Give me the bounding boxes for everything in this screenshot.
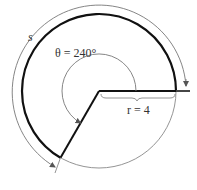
angle-label: θ = 240° (55, 46, 97, 60)
thick-arc (22, 14, 176, 158)
terminal-side (61, 91, 100, 158)
angle-arc (62, 54, 136, 123)
sector-diagram: θ = 240° r = 4 s (0, 0, 197, 190)
arc-label-s: s (28, 30, 33, 44)
arc-length-s-indicator (12, 5, 186, 167)
radius-brace (101, 94, 175, 101)
terminal-side-extension (55, 158, 61, 173)
radius-label: r = 4 (127, 103, 150, 117)
